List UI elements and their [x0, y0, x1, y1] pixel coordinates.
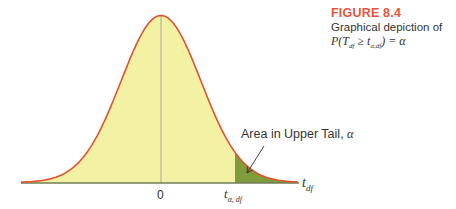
upper-tail-annotation: Area in Upper Tail, α: [241, 127, 354, 142]
x-tick-zero: 0: [157, 188, 164, 202]
formula-part: ) = α: [381, 34, 405, 48]
figure-description: Graphical depiction of: [331, 20, 456, 34]
x-tick-critical-value: tα, df: [224, 186, 242, 204]
x-axis-label: tdf: [302, 175, 313, 193]
formula-part: ≥ t: [354, 34, 370, 48]
figure-formula: P(Tdf ≥ tα,df) = α: [331, 34, 456, 54]
annotation-text: Area in Upper Tail,: [241, 127, 347, 141]
alpha-symbol: α: [347, 127, 354, 141]
annotation-arrow-line: [247, 146, 264, 173]
upper-tail-shaded-area: [235, 152, 298, 183]
df-subscript: df: [306, 183, 313, 193]
t-distribution-chart: [0, 0, 320, 209]
critical-subscript: α, df: [228, 195, 242, 204]
formula-part: P(T: [331, 34, 349, 48]
formula-subscript: α,df: [370, 42, 381, 50]
figure-label: FIGURE 8.4: [331, 6, 456, 20]
figure-caption: FIGURE 8.4 Graphical depiction of P(Tdf …: [331, 6, 456, 54]
